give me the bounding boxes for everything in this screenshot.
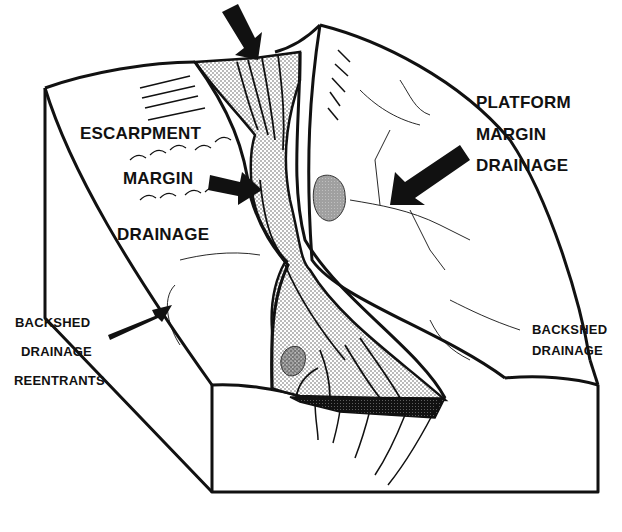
- label-escarpment-drainage: DRAINAGE: [117, 226, 209, 243]
- canyon: [195, 52, 445, 418]
- label-platform-drainage: DRAINAGE: [476, 157, 568, 174]
- label-backshed-1: BACKSHED: [532, 323, 607, 336]
- label-backshed-2: DRAINAGE: [532, 344, 603, 357]
- label-backshed-reentrants-1: BACKSHED: [15, 316, 90, 329]
- label-backshed-reentrants-3: REENTRANTS: [14, 374, 105, 387]
- block-diagram: ESCARPMENT MARGIN DRAINAGE PLATFORM MARG…: [0, 0, 622, 532]
- backshed-reentrant-arrow: [108, 305, 172, 340]
- label-platform-margin: MARGIN: [476, 126, 546, 143]
- diagram-drawing: [0, 0, 622, 532]
- canyon-head-arrow: [222, 4, 262, 60]
- label-platform: PLATFORM: [476, 94, 571, 111]
- platform-margin-arrow: [390, 145, 470, 205]
- label-backshed-reentrants-2: DRAINAGE: [21, 345, 92, 358]
- label-escarpment-margin: MARGIN: [123, 170, 193, 187]
- label-escarpment: ESCARPMENT: [80, 125, 201, 142]
